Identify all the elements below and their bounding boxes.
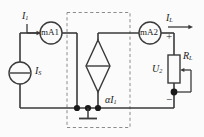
load-resistor-label: RL [183,51,193,61]
circuit-diagram: mA1 mA2 I1 IS αI1 IL U2 RL + − [0,0,204,137]
schematic-canvas [0,0,204,137]
dependent-source-subscript: 1 [114,98,117,105]
il-arrow-head [188,25,193,29]
ammeter-ma1-label: mA1 [41,28,59,37]
load-current-subscript: L [169,16,172,23]
output-positive-terminal-label: + [166,31,172,42]
dependent-source-label: αI1 [105,95,117,105]
input-current-label: I1 [22,11,28,21]
load-current-label: IL [166,13,173,23]
junction-dot-dep-source [95,105,101,111]
dependent-source-symbol: αI [105,94,114,105]
output-voltage-subscript: 2 [159,67,162,74]
load-potentiometer-body [168,55,180,83]
load-resistor-subscript: L [189,54,192,61]
output-voltage-label: U2 [152,64,162,74]
source-current-label: IS [35,66,41,76]
ammeter-ma2-label: mA2 [140,28,158,37]
junction-dot-input-return [74,105,80,111]
input-current-subscript: 1 [25,14,28,21]
output-negative-terminal-label: − [166,94,172,105]
source-current-subscript: S [38,69,41,76]
